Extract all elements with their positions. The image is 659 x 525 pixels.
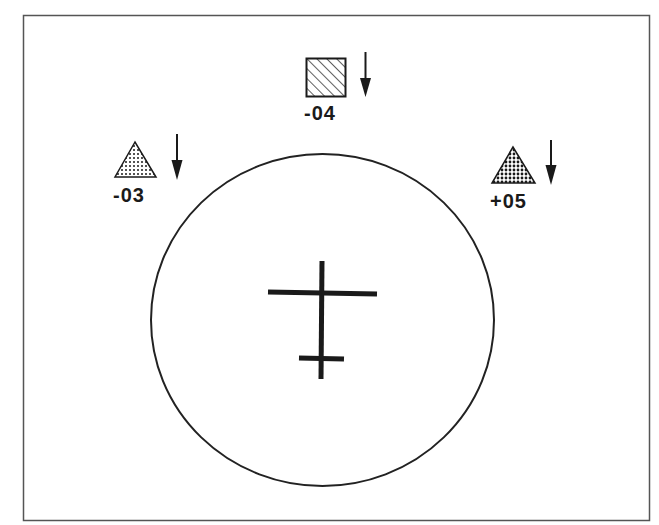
traffic-triangle-icon	[492, 147, 535, 183]
descending-arrow-icon	[546, 140, 557, 185]
traffic-triangle-icon	[115, 142, 156, 177]
traffic-target-top: -04	[304, 52, 371, 124]
traffic-display: -04 -03 +05	[0, 0, 659, 525]
traffic-target-left: -03	[113, 134, 183, 206]
relative-altitude-label: +05	[490, 190, 527, 212]
relative-altitude-label: -03	[113, 184, 145, 206]
descending-arrow-icon	[360, 52, 371, 97]
relative-altitude-label: -04	[304, 102, 336, 124]
traffic-target-right: +05	[490, 140, 557, 212]
descending-arrow-icon	[172, 134, 183, 180]
own-aircraft-icon	[268, 261, 377, 379]
proximate-traffic-square-icon	[307, 59, 346, 97]
